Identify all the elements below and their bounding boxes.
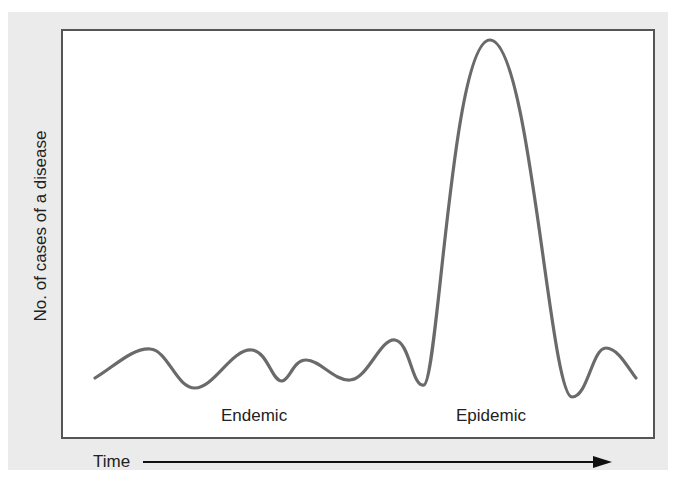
x-axis-label: Time xyxy=(93,452,130,472)
time-axis-arrowhead xyxy=(593,456,612,468)
disease-cases-curve xyxy=(95,40,636,397)
y-axis-label: No. of cases of a disease xyxy=(31,131,51,322)
chart-canvas xyxy=(0,0,688,499)
epidemic-label: Epidemic xyxy=(456,406,526,426)
endemic-label: Endemic xyxy=(221,406,287,426)
